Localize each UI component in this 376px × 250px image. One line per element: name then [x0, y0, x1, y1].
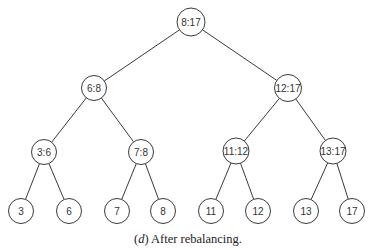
- tree-edge: [244, 98, 279, 141]
- tree-nodes: 8:176:812:173:67:811:1213:17367811121317: [9, 8, 365, 224]
- figure-caption: (d) After rebalancing.: [0, 232, 376, 247]
- tree-node: 17: [340, 199, 365, 224]
- caption-tag: d: [138, 232, 144, 246]
- tree-edge: [49, 164, 64, 200]
- tree-node: 11: [199, 199, 224, 224]
- tree-node: 11:12: [223, 138, 249, 164]
- tree-node: 13: [294, 199, 319, 224]
- tree-edge: [122, 164, 137, 200]
- tree-edge: [296, 99, 326, 140]
- tree-node: 8: [151, 199, 176, 224]
- tree-edge: [26, 164, 40, 200]
- node-label: 3:6: [37, 147, 51, 158]
- tree-edge: [101, 98, 133, 142]
- tree-edge: [216, 163, 231, 200]
- tree-node: 7:8: [129, 140, 154, 165]
- tree-edge: [104, 30, 179, 81]
- tree-node: 13:17: [320, 138, 346, 164]
- tree-edge: [241, 163, 254, 199]
- node-label: 8:17: [181, 17, 201, 28]
- node-label: 6:8: [87, 83, 101, 94]
- node-label: 13:17: [320, 146, 345, 157]
- node-label: 6: [66, 206, 72, 217]
- tree-diagram: 8:176:812:173:67:811:1213:17367811121317: [0, 0, 376, 250]
- tree-node: 6: [57, 199, 82, 224]
- tree-node: 6:8: [82, 76, 107, 101]
- node-label: 17: [346, 206, 358, 217]
- tree-edge: [337, 163, 348, 199]
- caption-text: After rebalancing.: [151, 232, 242, 246]
- node-label: 12: [252, 206, 264, 217]
- node-label: 11:12: [224, 146, 249, 157]
- node-label: 8: [160, 206, 166, 217]
- node-label: 7: [114, 206, 120, 217]
- tree-node: 8:17: [177, 8, 205, 36]
- node-label: 13: [300, 206, 312, 217]
- tree-edge: [203, 30, 277, 81]
- node-label: 3: [18, 206, 24, 217]
- tree-edge: [52, 98, 87, 142]
- tree-edges: [26, 30, 349, 200]
- tree-node: 12:17: [275, 75, 302, 102]
- tree-edge: [311, 163, 328, 200]
- node-label: 11: [206, 206, 217, 217]
- tree-node: 3:6: [32, 140, 57, 165]
- node-label: 7:8: [134, 147, 148, 158]
- tree-node: 12: [246, 199, 271, 224]
- tree-edge: [145, 164, 158, 200]
- tree-node: 3: [9, 199, 34, 224]
- tree-node: 7: [105, 199, 130, 224]
- node-label: 12:17: [275, 83, 300, 94]
